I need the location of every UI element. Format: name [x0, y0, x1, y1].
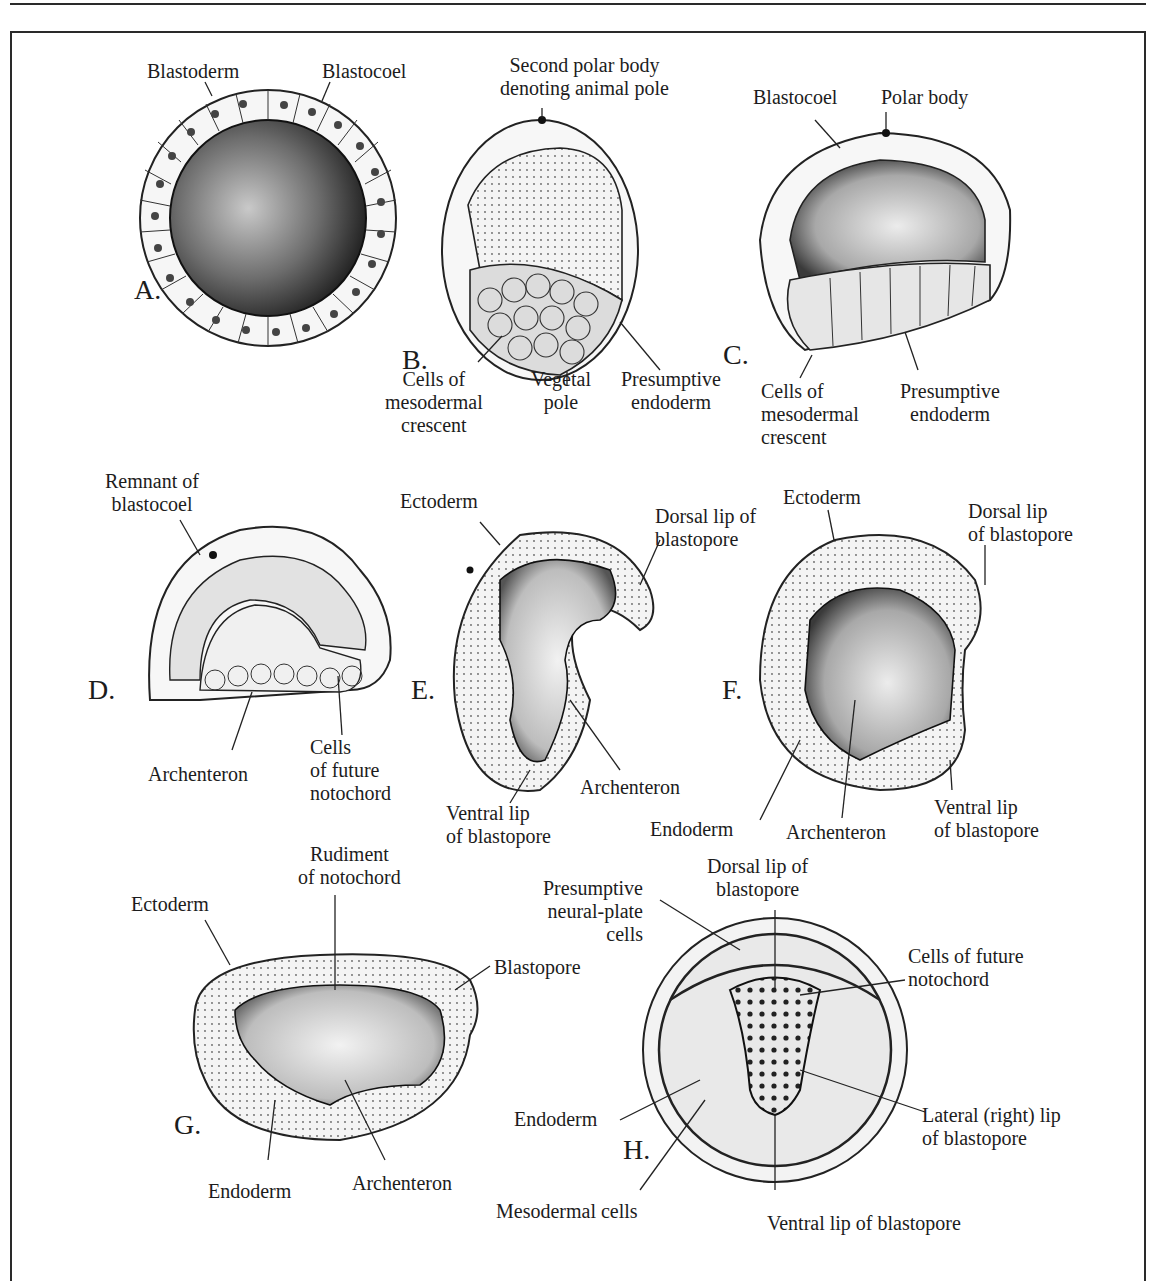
label-g-rudiment-notochord: Rudiment of notochord [298, 843, 401, 889]
label-c-blastocoel: Blastocoel [753, 86, 837, 109]
label-g-blastopore: Blastopore [494, 956, 581, 979]
label-d-remnant-blastocoel: Remnant of blastocoel [105, 470, 199, 516]
panel-letter-g: G. [174, 1110, 201, 1140]
panel-letter-c: C. [723, 340, 749, 370]
panel-letter-d: D. [88, 675, 115, 705]
label-e-archenteron: Archenteron [580, 776, 680, 799]
label-a-blastoderm: Blastoderm [147, 60, 239, 83]
label-a-blastocoel: Blastocoel [322, 60, 406, 83]
panel-letter-f: F. [722, 675, 742, 705]
top-rule [10, 3, 1146, 5]
label-f-dorsal-lip: Dorsal lip of blastopore [968, 500, 1073, 546]
label-f-ectoderm: Ectoderm [783, 486, 861, 509]
label-h-mesodermal-cells: Mesodermal cells [496, 1200, 638, 1223]
label-f-ventral-lip: Ventral lip of blastopore [934, 796, 1039, 842]
panel-letter-h: H. [623, 1135, 650, 1165]
label-h-neural-plate-cells: Presumptive neural-plate cells [543, 877, 643, 946]
label-b-second-polar-body: Second polar body denoting animal pole [500, 54, 669, 100]
label-e-ventral-lip: Ventral lip of blastopore [446, 802, 551, 848]
label-d-archenteron: Archenteron [148, 763, 248, 786]
label-g-ectoderm: Ectoderm [131, 893, 209, 916]
label-c-mesodermal-crescent: Cells of mesodermal crescent [761, 380, 859, 449]
label-c-presumptive-endoderm: Presumptive endoderm [900, 380, 1000, 426]
label-h-ventral-lip: Ventral lip of blastopore [767, 1212, 961, 1235]
panel-letter-e: E. [411, 675, 435, 705]
label-c-polar-body: Polar body [881, 86, 968, 109]
label-b-mesodermal-crescent: Cells of mesodermal crescent [385, 368, 483, 437]
label-f-endoderm: Endoderm [650, 818, 733, 841]
label-h-dorsal-lip: Dorsal lip of blastopore [707, 855, 808, 901]
label-e-dorsal-lip: Dorsal lip of blastopore [655, 505, 756, 551]
label-h-future-notochord: Cells of future notochord [908, 945, 1024, 991]
label-h-endoderm: Endoderm [514, 1108, 597, 1131]
label-d-future-notochord: Cells of future notochord [310, 736, 391, 805]
panel-letter-a: A. [134, 275, 161, 305]
label-e-ectoderm: Ectoderm [400, 490, 478, 513]
label-g-endoderm: Endoderm [208, 1180, 291, 1203]
label-g-archenteron: Archenteron [352, 1172, 452, 1195]
label-b-vegetal-pole: Vegetal pole [531, 368, 591, 414]
label-b-presumptive-endoderm: Presumptive endoderm [621, 368, 721, 414]
label-h-lateral-lip: Lateral (right) lip of blastopore [922, 1104, 1061, 1150]
figure-frame [10, 31, 1146, 1281]
label-f-archenteron: Archenteron [786, 821, 886, 844]
